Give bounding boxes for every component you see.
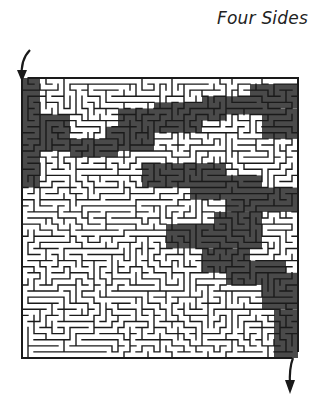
inner-walls xyxy=(22,78,298,358)
exit-arrow-icon xyxy=(285,358,295,394)
maze-board[interactable] xyxy=(0,0,322,403)
shaded-region xyxy=(262,108,298,138)
maze-walls xyxy=(22,78,298,358)
